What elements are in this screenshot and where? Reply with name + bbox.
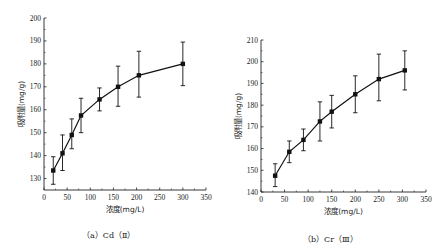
y-tick-label: 190	[247, 79, 259, 88]
data-point-marker	[70, 133, 74, 137]
caption-right: （b）Cr（Ⅲ）	[303, 233, 358, 244]
y-tick-label: 200	[30, 14, 42, 23]
y-tick-label: 170	[30, 82, 42, 91]
x-tick-label: 50	[63, 193, 71, 202]
y-tick-label: 150	[247, 166, 259, 175]
x-tick-label: 200	[131, 193, 143, 202]
data-point-marker	[181, 62, 185, 66]
x-tick-label: 50	[281, 195, 289, 204]
data-point-marker	[97, 97, 101, 101]
x-tick-label: 250	[154, 193, 166, 202]
data-point-marker	[353, 92, 357, 96]
data-point-marker	[318, 119, 322, 123]
y-tick-label: 180	[30, 59, 42, 68]
y-tick-label: 140	[30, 151, 42, 160]
data-point-marker	[79, 113, 83, 117]
chart-canvas: 1301401501601701801902000501001502002503…	[0, 0, 447, 252]
chart-cr: 1401501601701801902002100501001502002503…	[234, 36, 432, 217]
y-tick-label: 200	[247, 57, 259, 66]
y-tick-label: 170	[247, 122, 259, 131]
data-point-marker	[330, 109, 334, 113]
x-axis-title: 浓度(mg/L)	[106, 204, 145, 214]
data-point-marker	[51, 168, 55, 172]
x-tick-label: 350	[200, 193, 212, 202]
y-tick-label: 160	[30, 105, 42, 114]
y-tick-label: 210	[247, 36, 259, 45]
y-tick-label: 190	[30, 36, 42, 45]
y-axis-title: 吸附量(mg/g)	[17, 81, 26, 127]
x-tick-label: 0	[42, 193, 46, 202]
x-tick-label: 350	[420, 195, 432, 204]
caption-left: （a）Cd（Ⅱ）	[82, 229, 135, 240]
x-axis-title: 浓度(mg/L)	[324, 206, 363, 216]
data-point-marker	[403, 68, 407, 72]
data-point-marker	[377, 77, 381, 81]
chart-cd: 1301401501601701801902000501001502002503…	[17, 14, 212, 215]
y-tick-label: 180	[247, 101, 259, 110]
data-point-marker	[287, 150, 291, 154]
y-tick-label: 130	[30, 174, 42, 183]
data-point-marker	[60, 151, 64, 155]
x-tick-label: 100	[85, 193, 97, 202]
data-point-marker	[116, 85, 120, 89]
x-tick-label: 200	[350, 195, 362, 204]
data-point-marker	[137, 73, 141, 77]
data-line	[275, 70, 405, 175]
x-tick-label: 150	[326, 195, 338, 204]
y-tick-label: 140	[247, 188, 259, 197]
y-axis-title: 吸附量(mg/g)	[234, 93, 243, 139]
y-tick-label: 160	[247, 144, 259, 153]
x-tick-label: 0	[259, 195, 263, 204]
data-point-marker	[301, 138, 305, 142]
y-tick-label: 150	[30, 128, 42, 137]
x-tick-label: 250	[373, 195, 385, 204]
x-tick-label: 100	[303, 195, 315, 204]
x-tick-label: 300	[397, 195, 409, 204]
x-tick-label: 300	[177, 193, 189, 202]
x-tick-label: 150	[108, 193, 120, 202]
data-point-marker	[273, 174, 277, 178]
